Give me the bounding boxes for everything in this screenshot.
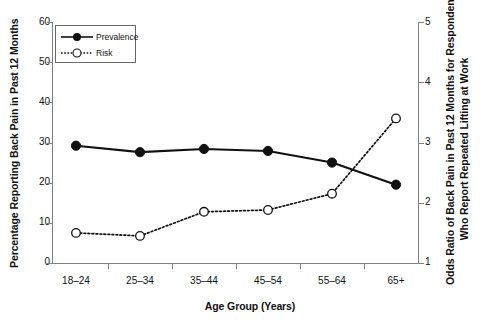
data-point xyxy=(264,206,273,215)
legend-marker-filled-circle-icon xyxy=(60,30,94,44)
data-point xyxy=(327,158,336,167)
data-point xyxy=(136,232,145,241)
legend-label-prevalence: Prevalence xyxy=(96,30,139,44)
data-point xyxy=(135,148,144,157)
data-point xyxy=(72,229,81,238)
series-line xyxy=(76,146,396,185)
legend-label-risk: Risk xyxy=(96,46,113,60)
data-point xyxy=(328,189,337,198)
data-point xyxy=(263,146,272,155)
legend-item-risk: Risk xyxy=(60,46,134,60)
series-line xyxy=(76,118,396,235)
chart-figure: Percentage Reporting Back Pain in Past 1… xyxy=(0,0,486,328)
data-point xyxy=(392,114,401,123)
legend-marker-open-circle-icon xyxy=(60,46,94,60)
series-risk xyxy=(72,114,401,240)
data-point xyxy=(200,207,209,216)
chart-legend: Prevalence Risk xyxy=(55,25,136,63)
data-point xyxy=(71,141,80,150)
data-point xyxy=(391,180,400,189)
data-point xyxy=(199,144,208,153)
legend-item-prevalence: Prevalence xyxy=(60,30,134,44)
series-prevalence xyxy=(71,141,400,189)
